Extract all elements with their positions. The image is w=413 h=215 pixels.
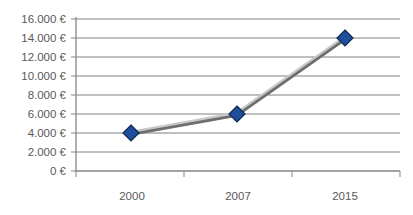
series-markers [123, 30, 353, 141]
data-point-marker [123, 125, 139, 141]
plot-area [0, 0, 413, 215]
line-chart: 16.000 € 14.000 € 12.000 € 10.000 € 8.00… [0, 0, 413, 215]
x-axis-tick-marks [76, 171, 400, 177]
y-axis-tick-marks [71, 19, 76, 171]
